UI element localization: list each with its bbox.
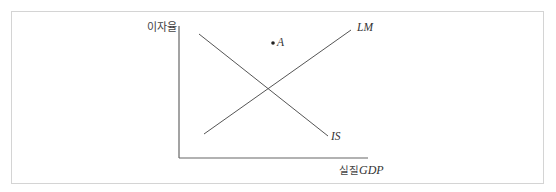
is-curve bbox=[199, 34, 328, 136]
is-curve-label: IS bbox=[331, 131, 341, 143]
point-a-marker bbox=[271, 41, 275, 45]
is-lm-diagram bbox=[0, 0, 556, 192]
x-axis-label-korean: 실질 bbox=[339, 164, 359, 176]
point-a-label: A bbox=[277, 37, 284, 49]
y-axis-label: 이자율 bbox=[147, 22, 177, 33]
lm-curve-label: LM bbox=[357, 22, 373, 34]
x-axis-label-gdp: GDP bbox=[359, 163, 384, 177]
x-axis-label: 실질GDP bbox=[339, 164, 384, 176]
